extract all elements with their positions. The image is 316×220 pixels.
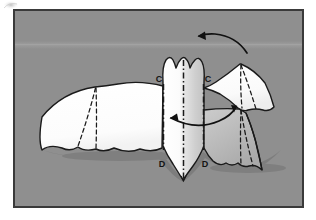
origami-bat-figure: C C D D: [0, 0, 316, 220]
background-light-band: [15, 41, 302, 49]
corner-smudge-icon: [3, 1, 19, 10]
label-c-right: C: [205, 74, 212, 84]
label-c-left: C: [156, 74, 163, 84]
label-d-right: D: [202, 159, 209, 169]
diagram-page: C C D D: [0, 0, 316, 220]
label-d-left: D: [159, 159, 166, 169]
